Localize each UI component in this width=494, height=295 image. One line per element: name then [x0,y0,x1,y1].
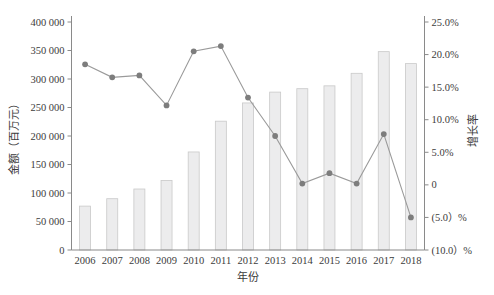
left-tick-label-250000: 250 000 [30,102,64,113]
bar-2008[interactable] [134,189,145,250]
growth-marker-2006[interactable] [82,61,88,67]
bar-2006[interactable] [80,206,91,250]
chart-figure: 050 000100 000150 000200 000250 000300 0… [0,0,494,295]
bar-2018[interactable] [405,64,416,250]
growth-marker-2016[interactable] [354,181,360,187]
bar-2013[interactable] [270,92,281,250]
x-tick-label-2018: 2018 [400,255,421,266]
bar-2017[interactable] [378,52,389,250]
bar-2015[interactable] [324,86,335,250]
left-axis-title: 金额（百万元） [7,98,20,175]
right-tick-label-15: 15.0% [432,82,459,93]
x-tick-label-2017: 2017 [373,255,394,266]
right-tick-label-25: 25.0% [432,17,459,28]
x-tick-label-2011: 2011 [211,255,232,266]
x-tick-label-2006: 2006 [75,255,96,266]
x-tick-label-2012: 2012 [238,255,259,266]
growth-marker-2018[interactable] [408,215,414,221]
growth-marker-2015[interactable] [327,170,333,176]
bar-2009[interactable] [161,180,172,250]
x-tick-label-2014: 2014 [292,255,314,266]
right-tick-label--5: (5.0）% [432,212,468,224]
left-tick-label-300000: 300 000 [30,74,64,85]
growth-marker-2013[interactable] [272,133,278,139]
bar-2007[interactable] [107,199,118,250]
bar-2010[interactable] [188,152,199,250]
right-tick-label-10: 10.0% [432,114,459,125]
x-tick-label-2008: 2008 [129,255,150,266]
right-tick-label-5: 5.0% [432,147,454,158]
left-tick-label-150000: 150 000 [30,159,64,170]
right-tick-label-20: 20.0% [432,49,459,60]
x-tick-label-2016: 2016 [346,255,367,266]
x-axis-ticks: 2006200720082009201020112012201320142015… [75,255,422,266]
right-axis-title: 增长率 [466,114,479,147]
x-tick-label-2015: 2015 [319,255,340,266]
growth-marker-2011[interactable] [218,43,224,49]
left-tick-label-100000: 100 000 [30,188,64,199]
x-tick-label-2009: 2009 [156,255,177,266]
left-tick-label-350000: 350 000 [30,45,64,56]
bar-2012[interactable] [243,103,254,250]
right-tick-label--10: (10.0）% [432,245,473,257]
left-axis-ticks: 050 000100 000150 000200 000250 000300 0… [30,17,71,256]
growth-marker-2012[interactable] [245,95,251,101]
bar-2014[interactable] [297,89,308,250]
growth-marker-2007[interactable] [109,74,115,80]
left-tick-label-50000: 50 000 [36,216,65,227]
growth-marker-2009[interactable] [164,102,170,108]
right-tick-label-0: 0 [432,179,437,190]
x-tick-label-2007: 2007 [102,255,123,266]
left-tick-label-400000: 400 000 [30,17,64,28]
left-tick-label-0: 0 [59,245,64,256]
growth-marker-2008[interactable] [136,73,142,79]
growth-marker-2010[interactable] [191,48,197,54]
chart-container: 050 000100 000150 000200 000250 000300 0… [0,0,494,295]
bar-series-group [80,52,417,250]
bar-2016[interactable] [351,73,362,250]
bar-2011[interactable] [215,121,226,250]
x-axis-title: 年份 [237,270,259,283]
right-axis-ticks: (10.0）%(5.0）%05.0%10.0%15.0%20.0%25.0% [425,17,473,257]
x-tick-label-2013: 2013 [265,255,286,266]
left-tick-label-200000: 200 000 [30,131,64,142]
x-tick-label-2010: 2010 [183,255,204,266]
growth-marker-2017[interactable] [381,131,387,137]
growth-marker-2014[interactable] [299,181,305,187]
